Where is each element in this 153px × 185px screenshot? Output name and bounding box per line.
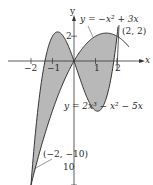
y-tick-label-2: 2 <box>66 32 72 41</box>
y-axis-label: y <box>70 7 75 16</box>
cubic-equation: y = 2x³ − x² − 5x <box>64 102 143 111</box>
point-label-neg2-neg10: (−2, −10) <box>43 150 88 159</box>
parabola-leader-line <box>88 26 93 37</box>
x-tick-label-2: 2 <box>115 64 121 73</box>
parabola-equation: y = −x² + 3x <box>80 15 139 24</box>
y-tick-label-neg10: 10 <box>63 163 74 172</box>
x-tick-label-neg1: −1 <box>47 64 60 73</box>
point-label-2-2: (2, 2) <box>122 27 146 36</box>
x-axis-label: x <box>145 56 150 65</box>
x-tick-label-1: 1 <box>94 64 100 73</box>
x-tick-label-neg2: −2 <box>24 64 37 73</box>
